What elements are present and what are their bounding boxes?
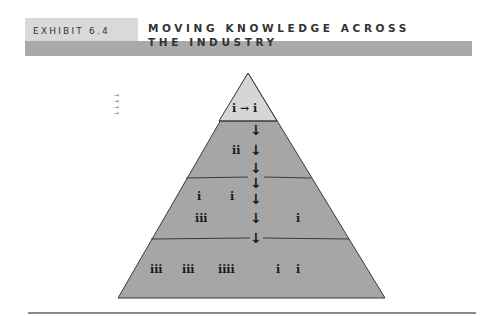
pyramid-diagram: → → → → i → i ↓ ↓ ↓ ↓ ↓ ↓ ↓ ii i i iii i…: [0, 0, 494, 316]
level-3-label: i: [197, 190, 201, 203]
base-label: i: [296, 263, 300, 276]
down-arrow-icon: ↓: [250, 160, 262, 176]
down-arrow-icon: ↓: [250, 230, 262, 246]
down-arrow-icon: ↓: [250, 175, 262, 191]
level-2-label: ii: [232, 144, 240, 157]
level-3-label: iii: [195, 212, 208, 225]
down-arrow-icon: ↓: [250, 210, 262, 226]
top-tier-label: i → i: [232, 102, 257, 115]
legend-arrows: → → → →: [114, 91, 119, 116]
down-arrow-icon: ↓: [250, 142, 262, 158]
down-arrow-icon: ↓: [250, 122, 262, 138]
base-label: iii: [150, 263, 163, 276]
small-arrow-icon: →: [114, 109, 119, 116]
level-3-label: i: [230, 190, 234, 203]
base-label: i: [276, 263, 280, 276]
bottom-rule: [28, 312, 476, 314]
base-label: iii: [182, 263, 195, 276]
down-arrow-icon: ↓: [250, 191, 262, 207]
level-3-label: i: [296, 212, 300, 225]
base-label: iiii: [218, 263, 235, 276]
